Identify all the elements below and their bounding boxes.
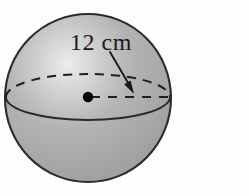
sphere-figure-canvas: 12 cm xyxy=(0,0,249,196)
sphere-diagram-svg: 12 cm xyxy=(0,0,249,196)
dimension-label: 12 cm xyxy=(70,29,132,55)
sphere-center-dot xyxy=(83,92,93,102)
